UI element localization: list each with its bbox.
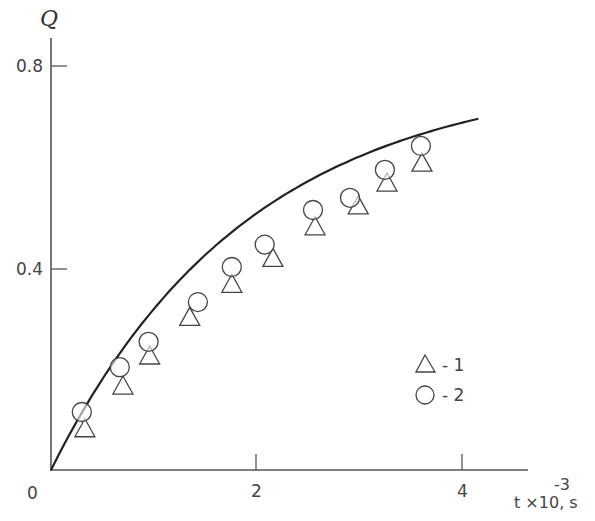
data-point-circle bbox=[222, 258, 241, 277]
data-point-circle bbox=[139, 332, 158, 351]
data-point-triangle bbox=[113, 376, 133, 394]
legend-label-2: - 2 bbox=[442, 387, 464, 404]
legend-circle-icon bbox=[416, 386, 434, 404]
data-point-circle bbox=[110, 358, 129, 377]
y-axis-label: Q bbox=[40, 6, 58, 31]
y-tick-label-0.4: 0.4 bbox=[16, 261, 43, 278]
data-point-circle bbox=[72, 403, 91, 422]
legend-triangle-icon bbox=[416, 355, 435, 372]
legend-label-1: - 1 bbox=[442, 357, 464, 374]
plot-area bbox=[51, 119, 478, 470]
x-axis-label-exponent: -3 bbox=[554, 477, 570, 493]
data-point-circle bbox=[411, 136, 430, 155]
data-point-circle bbox=[188, 293, 207, 312]
data-point-circle bbox=[341, 188, 360, 207]
data-point-circle bbox=[375, 160, 394, 179]
x-tick-label-4: 4 bbox=[457, 483, 468, 500]
y-tick-label-0.8: 0.8 bbox=[16, 58, 43, 75]
origin-label: 0 bbox=[27, 485, 38, 502]
x-axis-label: t ×10, s bbox=[514, 495, 578, 511]
chart-canvas bbox=[0, 0, 595, 521]
x-tick-label-2: 2 bbox=[251, 483, 262, 500]
data-point-circle bbox=[255, 235, 274, 254]
data-point-circle bbox=[304, 201, 323, 220]
